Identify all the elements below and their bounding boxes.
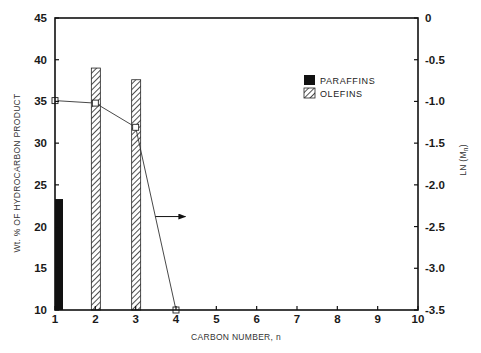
y-tick-label: 10 bbox=[34, 304, 47, 316]
y2-tick-label: -1.5 bbox=[425, 137, 445, 149]
square-marker-c3 bbox=[133, 124, 139, 130]
x-axis: 12345678910 bbox=[52, 306, 425, 325]
legend-swatch-paraffins bbox=[304, 75, 315, 85]
y-tick-label: 20 bbox=[34, 221, 47, 233]
y2-tick-label: -2.0 bbox=[425, 179, 445, 191]
legend-swatch-olefins bbox=[304, 88, 315, 98]
y2-axis-title: LN (Mn) bbox=[458, 144, 469, 176]
y2-tick-label: -3.0 bbox=[425, 262, 445, 274]
legend-label-olefins: OLEFINS bbox=[320, 89, 363, 99]
y-tick-label: 15 bbox=[34, 262, 47, 274]
x-tick-label: 9 bbox=[374, 313, 380, 325]
x-tick-label: 1 bbox=[52, 313, 59, 325]
x-tick-label: 8 bbox=[334, 313, 341, 325]
x-tick-label: 4 bbox=[173, 313, 180, 325]
y-tick-label: 30 bbox=[34, 137, 47, 149]
y-tick-label: 40 bbox=[34, 54, 47, 66]
x-tick-label: 10 bbox=[412, 313, 425, 325]
square-marker-c2 bbox=[92, 100, 98, 106]
y2-tick-label: 0 bbox=[425, 12, 431, 24]
x-tick-label: 3 bbox=[132, 313, 138, 325]
y2-tick-label: -0.5 bbox=[425, 54, 445, 66]
y-tick-label: 25 bbox=[34, 179, 47, 191]
y-axis-title: Wt. % OF HYDROCARBON PRODUCT bbox=[12, 93, 22, 252]
y-tick-label: 35 bbox=[34, 95, 47, 107]
legend: PARAFFINS OLEFINS bbox=[304, 75, 375, 99]
x-tick-label: 2 bbox=[92, 313, 98, 325]
legend-label-paraffins: PARAFFINS bbox=[320, 76, 375, 86]
y2-tick-label: -3.5 bbox=[425, 304, 445, 316]
ln-mn-line bbox=[55, 101, 176, 310]
bar-paraffins-c1 bbox=[55, 199, 63, 310]
x-axis-title: CARBON NUMBER, n bbox=[191, 332, 281, 342]
y-tick-label: 45 bbox=[34, 12, 47, 24]
plot-frame bbox=[55, 18, 418, 310]
x-tick-label: 5 bbox=[213, 313, 220, 325]
ln-mn-line-series bbox=[52, 98, 179, 313]
x-tick-label: 7 bbox=[294, 313, 300, 325]
bar-olefins-c3 bbox=[132, 80, 141, 310]
y2-tick-label: -1.0 bbox=[425, 95, 445, 107]
chart: 12345678910 1015202530354045 0-0.5-1.0-1… bbox=[0, 0, 481, 353]
y2-tick-label: -2.5 bbox=[425, 221, 445, 233]
x-tick-label: 6 bbox=[253, 313, 259, 325]
